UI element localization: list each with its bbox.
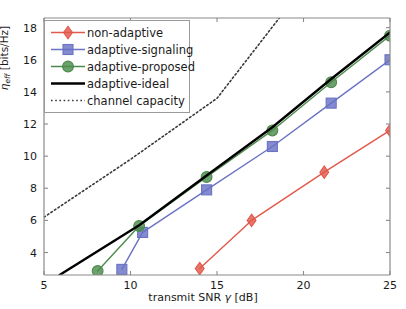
y-tick-label: 6 <box>30 214 37 227</box>
y-tick-label: 14 <box>23 86 37 99</box>
data-point-marker <box>320 166 329 178</box>
y-axis-unit: [bits/Hz] <box>0 26 10 74</box>
legend-swatch-square-icon <box>49 41 87 58</box>
legend-item-label: adaptive-signaling <box>87 43 193 57</box>
y-axis-symbol: η <box>0 84 10 91</box>
figure-canvas: 5101520254681012141618 non-adaptiveadapt… <box>0 0 406 309</box>
data-point-marker <box>247 214 256 226</box>
data-point-marker <box>202 185 212 195</box>
legend-swatch-none-icon <box>49 75 87 92</box>
x-axis-unit: [dB] <box>231 291 258 304</box>
y-axis-subscript: eff <box>3 73 12 83</box>
data-point-marker <box>267 142 277 152</box>
legend-item[interactable]: adaptive-signaling <box>49 41 185 58</box>
legend-item[interactable]: adaptive-ideal <box>49 75 185 92</box>
legend-item-label: adaptive-proposed <box>87 60 195 74</box>
series-line <box>200 130 390 268</box>
data-point-marker <box>117 264 127 274</box>
legend-item-label: adaptive-ideal <box>87 77 169 91</box>
y-tick-label: 10 <box>23 150 37 163</box>
y-axis-title: ηeff [bits/Hz] <box>0 0 12 118</box>
y-tick-label: 18 <box>23 22 37 35</box>
legend-item-label: non-adaptive <box>87 26 163 40</box>
legend-swatch-diamond-icon <box>49 24 87 41</box>
legend-item[interactable]: channel capacity <box>49 92 185 109</box>
y-tick-label: 8 <box>30 182 37 195</box>
legend-item-label: channel capacity <box>87 94 185 108</box>
legend-swatch-circle-icon <box>49 58 87 75</box>
x-axis-title: transmit SNR γ [dB] <box>0 291 406 304</box>
series-non-adaptive <box>195 124 394 275</box>
y-tick-label: 16 <box>23 54 37 67</box>
y-tick-label: 12 <box>23 118 37 131</box>
legend-swatch-none-icon <box>49 92 87 109</box>
y-tick-label: 4 <box>30 247 37 260</box>
legend-item[interactable]: non-adaptive <box>49 24 185 41</box>
data-point-marker <box>326 98 336 108</box>
x-axis-title-main: transmit SNR <box>148 291 224 304</box>
legend-item[interactable]: adaptive-proposed <box>49 58 185 75</box>
data-point-marker <box>195 262 204 274</box>
legend: non-adaptiveadaptive-signalingadaptive-p… <box>44 20 190 113</box>
